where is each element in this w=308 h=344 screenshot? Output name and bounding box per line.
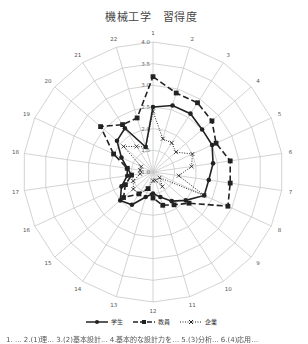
svg-text:7: 7 xyxy=(289,189,293,195)
svg-text:13: 13 xyxy=(110,302,117,308)
svg-text:6: 6 xyxy=(289,149,293,155)
svg-text:18: 18 xyxy=(12,149,19,155)
svg-text:1.0: 1.0 xyxy=(141,169,150,175)
svg-text:3.5: 3.5 xyxy=(141,61,150,67)
legend-label: 企業 xyxy=(205,317,217,326)
radar-grid xyxy=(24,42,281,302)
svg-text:21: 21 xyxy=(74,52,81,58)
legend-item-company: 企業 xyxy=(180,317,217,326)
svg-text:1: 1 xyxy=(151,30,155,36)
svg-text:2: 2 xyxy=(190,36,194,42)
legend-label: 学生 xyxy=(111,317,123,326)
svg-text:11: 11 xyxy=(189,302,196,308)
svg-text:5: 5 xyxy=(278,111,282,117)
svg-text:16: 16 xyxy=(23,227,30,233)
svg-text:20: 20 xyxy=(44,78,51,84)
svg-text:9: 9 xyxy=(256,260,260,266)
radar-series xyxy=(98,74,232,208)
footer-text: 1. ... 2.(1)理... 3.(2)基本設計... 4.基本的な設計力を… xyxy=(0,334,308,344)
svg-text:15: 15 xyxy=(44,260,51,266)
legend-dotted-x-icon xyxy=(180,319,202,325)
svg-text:22: 22 xyxy=(110,36,117,42)
legend-solid-circle-icon xyxy=(86,319,108,325)
legend-dashed-square-icon xyxy=(133,319,155,325)
legend-label: 教員 xyxy=(158,317,170,326)
svg-text:17: 17 xyxy=(12,189,19,195)
svg-text:4.0: 4.0 xyxy=(141,39,150,45)
svg-text:3: 3 xyxy=(226,52,230,58)
svg-text:4: 4 xyxy=(256,78,260,84)
svg-text:10: 10 xyxy=(225,286,232,292)
legend: 学生 教員 企業 xyxy=(0,317,302,326)
legend-item-faculty: 教員 xyxy=(133,317,170,326)
svg-text:14: 14 xyxy=(74,286,81,292)
svg-text:19: 19 xyxy=(23,111,30,117)
svg-text:12: 12 xyxy=(150,308,157,314)
svg-text:8: 8 xyxy=(278,227,282,233)
radar-tick-labels: 1.01.52.02.53.03.54.0 xyxy=(141,39,150,175)
legend-item-student: 学生 xyxy=(86,317,123,326)
